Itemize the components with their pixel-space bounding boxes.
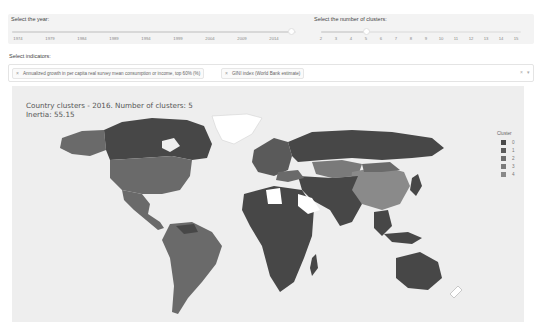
clusters-slider-fill	[321, 31, 366, 33]
remove-chip-icon[interactable]: ×	[225, 69, 228, 78]
legend-item[interactable]: 1	[497, 146, 533, 154]
year-tick: 1994	[141, 36, 150, 41]
region-mexico[interactable]	[122, 190, 164, 230]
region-greenland[interactable]	[212, 114, 262, 144]
remove-chip-icon[interactable]: ×	[16, 69, 19, 78]
year-tick: 1989	[109, 36, 118, 41]
year-tick: 2009	[237, 36, 246, 41]
controls-panel: Select the year: 1974 1979 1984 1989 199…	[8, 14, 534, 44]
indicator-chip[interactable]: × GINI index (World Bank estimate)	[221, 68, 304, 79]
world-choropleth-map[interactable]	[12, 86, 524, 322]
cluster-tick: 13	[484, 36, 489, 41]
cluster-tick: 10	[439, 36, 444, 41]
indicator-chip[interactable]: × Annualized growth in per capita real s…	[12, 68, 204, 79]
region-libya[interactable]	[266, 188, 282, 204]
year-tick: 1979	[45, 36, 54, 41]
legend-swatch	[501, 172, 506, 177]
clear-all-icon[interactable]: ×	[520, 69, 523, 75]
region-australia[interactable]	[396, 252, 442, 290]
region-indonesia[interactable]	[384, 232, 422, 244]
clusters-label: Select the number of clusters:	[314, 16, 387, 22]
chevron-down-icon[interactable]: ▾	[527, 69, 530, 75]
region-japan[interactable]	[410, 174, 422, 196]
region-mongolia[interactable]	[362, 162, 400, 172]
legend-swatch	[501, 148, 506, 153]
legend-label: 1	[512, 148, 515, 153]
legend-item[interactable]: 0	[497, 138, 533, 146]
cluster-tick: 7	[395, 36, 397, 41]
year-tick: 1999	[173, 36, 182, 41]
map-title: Country clusters - 2016. Number of clust…	[26, 101, 193, 119]
cluster-tick: 4	[350, 36, 352, 41]
map-title-line2: Inertia: 55.15	[26, 110, 193, 119]
cluster-tick: 2	[320, 36, 322, 41]
region-usa[interactable]	[110, 156, 192, 194]
year-tick: 2014	[269, 36, 278, 41]
year-tick: 1984	[77, 36, 86, 41]
region-madagascar[interactable]	[310, 254, 318, 276]
legend-title: Cluster	[497, 131, 533, 136]
region-se-asia[interactable]	[374, 210, 392, 236]
cluster-tick: 8	[410, 36, 412, 41]
region-europe[interactable]	[252, 138, 292, 176]
region-russia[interactable]	[288, 130, 444, 162]
legend-item[interactable]: 3	[497, 162, 533, 170]
dashboard: Select the year: 1974 1979 1984 1989 199…	[0, 0, 536, 334]
legend-swatch	[501, 156, 506, 161]
year-label: Select the year:	[11, 16, 49, 22]
region-alaska[interactable]	[60, 130, 106, 156]
legend-label: 4	[512, 172, 515, 177]
legend-swatch	[501, 164, 506, 169]
indicators-label: Select indicators:	[9, 53, 51, 59]
cluster-tick: 6	[380, 36, 382, 41]
cluster-tick: 12	[469, 36, 474, 41]
indicator-chip-label: GINI index (World Bank estimate)	[232, 71, 300, 76]
cluster-tick: 5	[365, 36, 367, 41]
clusters-slider-handle[interactable]	[363, 28, 370, 35]
year-tick: 2004	[205, 36, 214, 41]
legend-label: 2	[512, 156, 515, 161]
region-south-america[interactable]	[162, 222, 222, 314]
year-slider-handle[interactable]	[288, 28, 295, 35]
year-tick: 1974	[13, 36, 22, 41]
legend-label: 3	[512, 164, 515, 169]
region-canada[interactable]	[104, 118, 212, 160]
region-new-zealand[interactable]	[450, 286, 462, 298]
year-slider[interactable]: 1974 1979 1984 1989 1994 1999 2004 2009 …	[12, 26, 296, 42]
indicators-multiselect[interactable]: × Annualized growth in per capita real s…	[8, 64, 534, 82]
indicator-chip-label: Annualized growth in per capita real sur…	[23, 71, 200, 76]
cluster-tick: 9	[425, 36, 427, 41]
cluster-legend: Cluster 0 1 2 3 4	[497, 131, 533, 178]
cluster-tick: 15	[514, 36, 519, 41]
legend-swatch	[501, 140, 506, 145]
clusters-slider[interactable]: 2 3 4 5 6 7 8 9 10 11 12 13 14 15	[321, 26, 521, 42]
legend-label: 0	[512, 140, 515, 145]
cluster-tick: 14	[499, 36, 504, 41]
cluster-tick: 11	[454, 36, 458, 41]
legend-item[interactable]: 4	[497, 170, 533, 178]
map-title-line1: Country clusters - 2016. Number of clust…	[26, 101, 193, 110]
year-slider-fill	[12, 31, 291, 33]
legend-item[interactable]: 2	[497, 154, 533, 162]
cluster-tick: 3	[335, 36, 337, 41]
